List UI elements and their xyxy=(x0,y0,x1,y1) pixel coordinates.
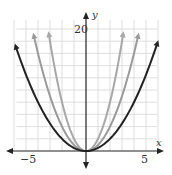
curve-arrow-icon xyxy=(46,31,52,37)
y-axis-down-arrow-icon xyxy=(83,162,89,169)
x-axis-label: x xyxy=(156,137,162,148)
curve-arrow-icon xyxy=(120,31,126,37)
x-tick-neg5: −5 xyxy=(20,153,36,166)
curve-arrow-icon xyxy=(32,33,38,40)
y-axis-up-arrow-icon xyxy=(83,12,89,19)
y-tick-20: 20 xyxy=(74,23,88,36)
curve-arrow-icon xyxy=(135,33,141,40)
x-axis-left-arrow-icon xyxy=(6,148,13,154)
y-axis-label: y xyxy=(91,9,98,20)
x-axis-right-arrow-icon xyxy=(157,148,164,154)
curve-arrow-icon xyxy=(14,44,20,51)
x-tick-5: 5 xyxy=(141,153,148,166)
parabola-chart: y x 20 −5 5 xyxy=(0,0,172,175)
